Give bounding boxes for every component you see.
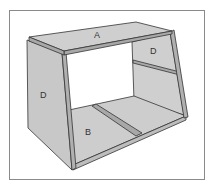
label-d-left: D [40,90,47,100]
label-b: B [85,127,91,137]
label-d-right: D [150,46,157,56]
box-illustration: A D D B [0,0,214,189]
label-a: A [94,30,100,40]
